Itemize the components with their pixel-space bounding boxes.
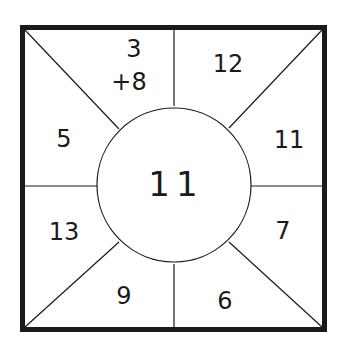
section-left-upper: 5 [56,125,71,153]
section-top-right: 12 [213,50,244,78]
section-left-lower: 13 [49,218,80,246]
number-wheel-diagram: 11 3 +8 12 11 7 6 9 13 5 [0,0,346,360]
section-bottom-right: 6 [217,287,232,315]
section-right-lower: 7 [275,217,290,245]
section-right-upper: 11 [274,126,305,154]
section-top-left-line1: 3 [126,35,141,63]
center-value: 11 [148,164,203,204]
section-top-left-line2: +8 [111,68,146,96]
section-bottom-left: 9 [116,282,131,310]
